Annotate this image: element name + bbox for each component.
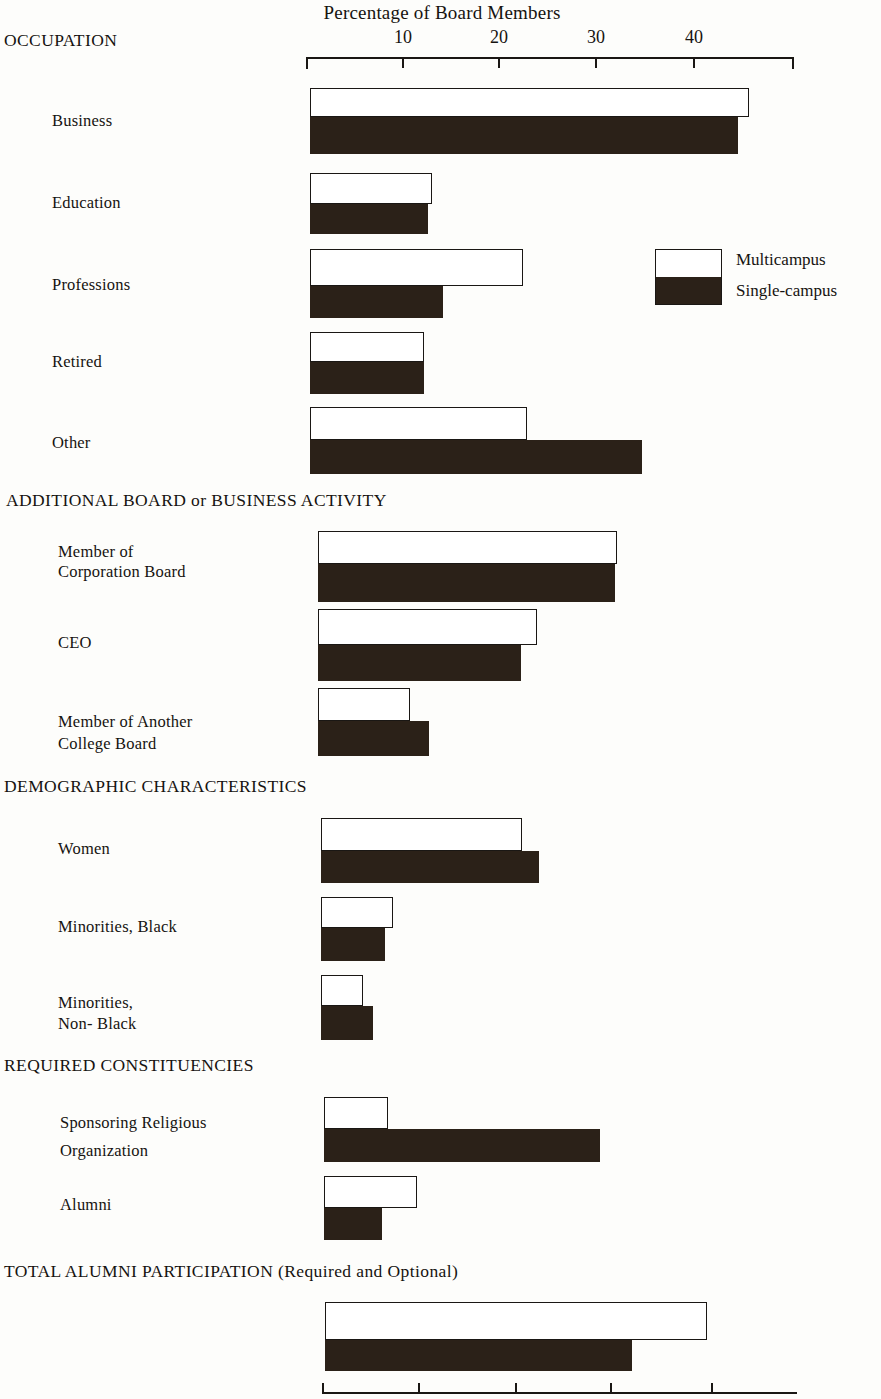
bar-multicampus-other [310, 407, 527, 440]
category-label-ceo: CEO [58, 632, 92, 653]
bar-singlecampus-another-college-board [318, 721, 429, 756]
xtick-label-20: 20 [479, 27, 519, 48]
bar-multicampus-education [310, 173, 432, 204]
top-axis-right-cap [792, 57, 794, 69]
bar-multicampus-minorities-black [321, 897, 393, 928]
bar-multicampus-total-alumni [325, 1302, 707, 1340]
axis-title: Percentage of Board Members [323, 2, 560, 24]
category-label-minorities-nonblack-line2: Non- Black [58, 1013, 137, 1034]
bar-singlecampus-business [310, 117, 738, 154]
bottom-axis-tick-40 [711, 1383, 713, 1392]
category-label-education: Education [52, 192, 121, 213]
bar-singlecampus-retired [310, 362, 424, 394]
bar-multicampus-minorities-nonblack [321, 975, 363, 1006]
bar-multicampus-alumni [324, 1176, 417, 1208]
bar-singlecampus-alumni [324, 1208, 382, 1240]
category-label-women: Women [58, 838, 110, 859]
bar-singlecampus-sponsoring-religious [324, 1129, 600, 1162]
legend-label-singlecampus: Single-campus [736, 281, 837, 301]
legend-label-multicampus: Multicampus [736, 250, 826, 270]
bar-singlecampus-other [310, 440, 642, 474]
legend-swatch-box [655, 249, 722, 305]
bar-multicampus-corporation-board [318, 531, 617, 564]
bar-singlecampus-total-alumni [325, 1340, 632, 1371]
section-heading-occupation: OCCUPATION [4, 30, 117, 51]
top-axis-tick-30 [595, 59, 597, 68]
bar-singlecampus-minorities-nonblack [321, 1006, 373, 1040]
bar-multicampus-another-college-board [318, 688, 410, 721]
bar-singlecampus-corporation-board [318, 564, 615, 602]
xtick-label-10: 10 [383, 27, 423, 48]
category-label-corporation-board-line2: Corporation Board [58, 561, 186, 582]
bar-singlecampus-education [310, 204, 428, 234]
top-axis-tick-40 [693, 59, 695, 68]
bar-multicampus-retired [310, 332, 424, 362]
section-heading-required: REQUIRED CONSTITUENCIES [4, 1055, 254, 1076]
bar-multicampus-women [321, 818, 522, 851]
category-label-minorities-nonblack-line1: Minorities, [58, 992, 133, 1013]
top-axis-tick-20 [498, 59, 500, 68]
bar-singlecampus-professions [310, 286, 443, 318]
section-heading-demographic: DEMOGRAPHIC CHARACTERISTICS [4, 776, 307, 797]
bar-singlecampus-ceo [318, 645, 521, 681]
category-label-corporation-board-line1: Member of [58, 541, 134, 562]
xtick-label-40: 40 [674, 27, 714, 48]
category-label-religious-line2: Organization [60, 1140, 148, 1161]
category-label-other: Other [52, 432, 91, 453]
category-label-another-college-board-line2: College Board [58, 733, 156, 754]
bottom-axis-line [322, 1392, 797, 1394]
bottom-axis-tick-0 [322, 1383, 324, 1392]
bar-multicampus-business [310, 88, 749, 117]
legend-swatch-multicampus [656, 250, 721, 277]
category-label-religious-line1: Sponsoring Religious [60, 1112, 207, 1133]
category-label-professions: Professions [52, 274, 130, 295]
category-label-alumni: Alumni [60, 1194, 112, 1215]
top-axis-tick-10 [402, 59, 404, 68]
chart-page: Percentage of Board Members 10 20 30 40 … [0, 0, 881, 1399]
category-label-another-college-board-line1: Member of Another [58, 711, 192, 732]
bottom-axis-tick-10 [418, 1383, 420, 1392]
bottom-axis-tick-20 [515, 1383, 517, 1392]
bar-singlecampus-women [321, 851, 539, 883]
bottom-axis-tick-30 [610, 1383, 612, 1392]
section-heading-total-alumni: TOTAL ALUMNI PARTICIPATION (Required and… [4, 1261, 458, 1282]
bar-multicampus-sponsoring-religious [324, 1097, 388, 1129]
xtick-label-30: 30 [576, 27, 616, 48]
legend-swatch-singlecampus [656, 277, 721, 304]
section-heading-additional: ADDITIONAL BOARD or BUSINESS ACTIVITY [6, 490, 387, 511]
top-axis-left-cap [306, 57, 308, 69]
top-axis-line [306, 57, 794, 59]
bar-multicampus-ceo [318, 609, 537, 645]
bar-multicampus-professions [310, 249, 523, 286]
bar-singlecampus-minorities-black [321, 928, 385, 961]
category-label-retired: Retired [52, 351, 102, 372]
category-label-business: Business [52, 110, 112, 131]
category-label-minorities-black: Minorities, Black [58, 916, 177, 937]
